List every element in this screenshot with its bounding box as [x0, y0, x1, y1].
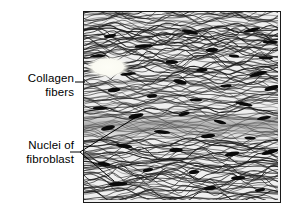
- label-nuclei-of-fibroblast: Nuclei of fibroblast: [4, 139, 74, 166]
- histology-figure: Collagen fibers Nuclei of fibroblast: [0, 0, 288, 214]
- label-collagen-fibers: Collagen fibers: [4, 72, 74, 99]
- micrograph-frame: [83, 11, 281, 203]
- collagen-tissue-illustration: [84, 12, 278, 200]
